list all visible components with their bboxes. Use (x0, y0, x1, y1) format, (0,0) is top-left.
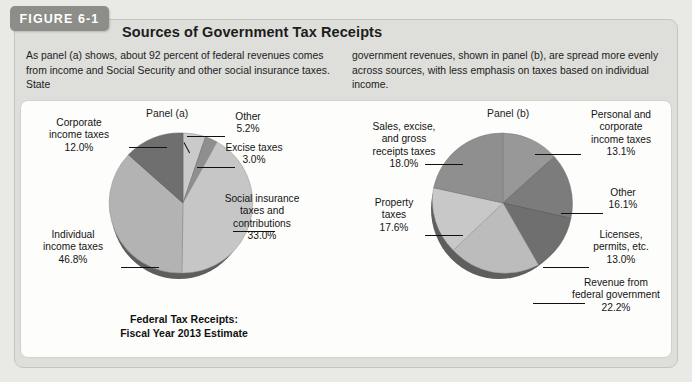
panel-a-caption-line2: Fiscal Year 2013 Estimate (21, 327, 347, 341)
label-individual-pct: 46.8% (23, 254, 123, 266)
label-other-pct: 5.2% (217, 123, 279, 135)
label-social-line1: Social insurance (203, 193, 321, 205)
leader-individual (121, 267, 159, 268)
label-property-line2: taxes (355, 209, 433, 221)
label-federal-line2: federal government (553, 289, 679, 301)
figure-title: Sources of Government Tax Receipts (122, 24, 382, 40)
label-federal-revenue: Revenue from federal government 22.2% (553, 277, 679, 314)
label-personal-line2: corporate (571, 121, 671, 133)
label-personal-line3: income taxes (571, 134, 671, 146)
leader-federal (533, 303, 585, 304)
label-other-b: Other 16.1% (589, 187, 657, 212)
leader-corporate (129, 147, 167, 148)
label-individual-line2: income taxes (23, 241, 123, 253)
panel-b-caption-line1: State and Local Tax Revenues: (673, 313, 692, 327)
label-social-pct: 33.0% (203, 230, 321, 242)
label-social-insurance: Social insurance taxes and contributions… (203, 193, 321, 243)
label-personal-corporate: Personal and corporate income taxes 13.1… (571, 109, 671, 159)
label-other-b-pct: 16.1% (589, 199, 657, 211)
label-federal-line1: Revenue from (553, 277, 679, 289)
panel-a-caption: Federal Tax Receipts: Fiscal Year 2013 E… (21, 313, 347, 340)
label-licenses-line2: permits, etc. (575, 241, 667, 253)
label-property-line1: Property (355, 197, 433, 209)
panel-b-caption-line2: Fiscal Year 2013 Estimate (673, 327, 692, 341)
panel-a-tag: Panel (a) (146, 108, 188, 119)
label-excise-taxes: Excise taxes 3.0% (211, 142, 297, 167)
label-personal-line1: Personal and (571, 109, 671, 121)
label-social-line2: taxes and (203, 205, 321, 217)
label-social-line3: contributions (203, 218, 321, 230)
label-licenses-line1: Licenses, (575, 229, 667, 241)
label-licenses-pct: 13.0% (575, 254, 667, 266)
intro-text-right-body: government revenues, shown in panel (b),… (352, 50, 658, 90)
label-corporate-line1: Corporate (29, 117, 129, 129)
label-sales-line1: Sales, excise, (351, 121, 457, 133)
intro-text-left: As panel (a) shows, about 92 percent of … (26, 49, 334, 93)
label-property-taxes: Property taxes 17.6% (355, 197, 433, 234)
label-excise-line1: Excise taxes (211, 142, 297, 154)
leader-other-b (561, 213, 603, 214)
label-property-pct: 17.6% (355, 222, 433, 234)
leader-licenses (543, 267, 589, 268)
label-excise-pct: 3.0% (211, 154, 297, 166)
label-sales-line3: receipts taxes (351, 146, 457, 158)
label-other-b-line1: Other (589, 187, 657, 199)
leader-sales (425, 164, 463, 165)
label-sales-line2: and gross (351, 133, 457, 145)
label-individual-income-taxes: Individual income taxes 46.8% (23, 229, 123, 266)
panel-a-caption-line1: Federal Tax Receipts: (21, 313, 347, 327)
figure-root: FIGURE 6-1 Sources of Government Tax Rec… (0, 0, 692, 382)
label-personal-pct: 13.1% (571, 146, 671, 158)
panel-a: Panel (a) (21, 101, 347, 359)
label-corporate-income-taxes: Corporate income taxes 12.0% (29, 117, 129, 154)
leader-excise (197, 167, 235, 168)
leader-social (233, 231, 275, 232)
label-individual-line1: Individual (23, 229, 123, 241)
panel-b-caption: State and Local Tax Revenues: Fiscal Yea… (673, 313, 692, 340)
leader-personal (535, 154, 581, 155)
leader-other (187, 136, 225, 137)
panel-b-tag: Panel (b) (487, 108, 529, 119)
figure-number-badge: FIGURE 6-1 (10, 6, 109, 31)
label-corporate-pct: 12.0% (29, 142, 129, 154)
label-other-line1: Other (217, 111, 279, 123)
charts-area: Panel (a) (20, 100, 672, 358)
panel-b: Panel (b) (347, 101, 673, 359)
leader-property (425, 235, 463, 236)
label-corporate-line2: income taxes (29, 129, 129, 141)
label-other: Other 5.2% (217, 111, 279, 136)
label-licenses: Licenses, permits, etc. 13.0% (575, 229, 667, 266)
